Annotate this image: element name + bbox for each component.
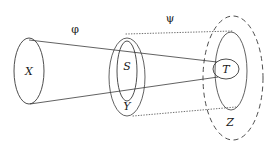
label-z: Z <box>225 116 234 129</box>
label-psi-map: ψ <box>166 12 175 25</box>
label-t: T <box>222 63 231 76</box>
label-phi-map: φ <box>71 23 79 36</box>
label-x: X <box>24 65 34 78</box>
psi-tube-top-line <box>126 31 233 34</box>
label-s: S <box>123 60 131 73</box>
math-diagram-figure: X S Y T Z φ ψ <box>0 0 276 147</box>
diagram-canvas: X S Y T Z φ ψ <box>0 0 276 147</box>
z-inner-ellipse <box>215 32 247 110</box>
psi-tube-bottom-line <box>133 107 236 116</box>
label-y: Y <box>123 100 132 113</box>
